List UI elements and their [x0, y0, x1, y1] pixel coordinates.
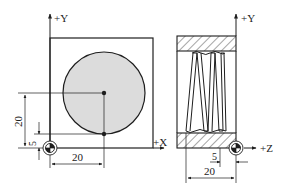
spring-coils [186, 52, 226, 133]
right-z-axis-label: +Z [260, 142, 273, 154]
dim-label-vertical-20: 20 [12, 116, 24, 128]
workpiece-zero-icon [43, 141, 57, 155]
right-view: +Y +Z 5 20 [177, 12, 273, 183]
right-y-axis-label: +Y [241, 12, 255, 24]
dim-label-vertical-5: 5 [27, 141, 38, 146]
dim-label-horizontal-20: 20 [72, 151, 84, 163]
dim-label-horizontal-5: 5 [212, 151, 217, 162]
top-hatched-section [177, 36, 236, 51]
workpiece-zero-icon [229, 141, 243, 155]
left-view: +Y +X 20 5 20 [12, 12, 167, 168]
dim-label-horizontal-20-right: 20 [204, 165, 216, 177]
coordinate-system-diagram: +Y +X 20 5 20 [0, 0, 287, 195]
left-x-axis-label: +X [153, 136, 167, 148]
left-y-axis-label: +Y [54, 12, 68, 24]
